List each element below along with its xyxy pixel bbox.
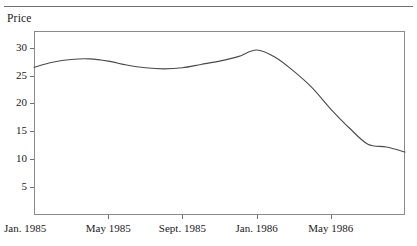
x-tick-mark [257,215,258,219]
series-price-line [34,31,405,215]
x-tick-label: May 1985 [86,222,131,234]
y-tick-label: 5 [22,181,28,192]
x-tick-label: Sept. 1985 [159,222,206,234]
y-tick-label: 15 [16,125,27,136]
x-tick-label: Jan. 1986 [236,222,278,234]
x-tick-mark [182,215,183,219]
x-tick-mark [331,215,332,219]
x-tick-label: Jan. 1985 [4,222,46,234]
header-rule [4,6,413,7]
y-tick-label: 10 [16,153,27,164]
y-axis-title: Price [7,11,32,25]
x-tick-label: May 1986 [308,222,353,234]
x-tick-mark [108,215,109,219]
y-tick-label: 25 [16,70,27,81]
plot-area: 51015202530 Jan. 1985May 1985Sept. 1985J… [34,31,405,215]
price-line-path [34,50,405,152]
y-tick-label: 20 [16,97,27,108]
y-tick-label: 30 [16,42,27,53]
price-line-chart-figure: Price 51015202530 Jan. 1985May 1985Sept.… [0,0,417,246]
